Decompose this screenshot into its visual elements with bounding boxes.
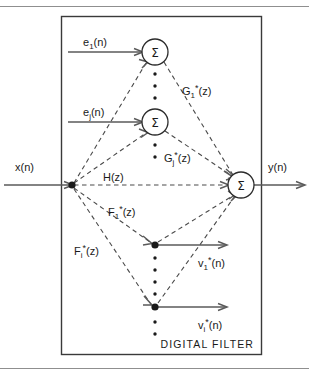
label-e1: e1(n): [83, 36, 107, 51]
label-H-base: H: [103, 171, 111, 183]
label-ej-arg: (n): [91, 106, 104, 118]
label-y: y(n): [268, 161, 287, 173]
label-H: H(z): [103, 171, 124, 183]
label-Fi: Fi*(z): [74, 243, 99, 260]
summer-output-glyph: Σ: [237, 179, 245, 193]
summer-middle: Σ: [142, 109, 168, 135]
label-H-arg: (z): [111, 171, 124, 183]
path-to-summer-top: [74, 63, 146, 183]
label-y-arg: (n): [274, 161, 287, 173]
label-v1-arg: (n): [211, 257, 224, 269]
ellipsis-middle-lower: [153, 143, 156, 158]
branch-node-input: [68, 181, 75, 188]
label-G1: G1*(z): [182, 83, 211, 100]
label-x-arg: (n): [21, 161, 34, 173]
ellipsis-top-middle: [153, 72, 156, 99]
summer-top: Σ: [142, 39, 168, 65]
digital-filter-figure: Σ Σ Σ e1(n) ej(n) x(n) y(n) H(z) G1*(z) …: [0, 0, 309, 379]
summer-middle-glyph: Σ: [151, 116, 159, 130]
label-v1: v1*(n): [198, 255, 225, 272]
path-tapi-to-output: [158, 196, 235, 303]
path-tap1-to-output: [158, 195, 234, 242]
path-F1-arrowhead: [143, 236, 152, 245]
label-Gj-arg: (z): [178, 152, 191, 164]
ellipsis-below-tapi: [153, 320, 156, 335]
digital-filter-caption: DIGITAL FILTER: [161, 338, 254, 350]
label-vi-arg: (n): [209, 319, 222, 331]
label-G1-base: G: [182, 85, 191, 97]
label-Gj: Gj*(z): [164, 150, 191, 167]
tap-node-i: [151, 303, 158, 310]
label-G1-arg: (z): [199, 85, 212, 97]
label-x: x(n): [15, 161, 34, 173]
ellipsis-tap1-tapi: [153, 256, 156, 295]
label-F1: F1*(z): [108, 204, 136, 221]
label-vi: vi*(n): [198, 317, 222, 334]
label-ej: ej(n): [83, 106, 104, 121]
summer-top-glyph: Σ: [151, 46, 159, 60]
label-Gj-base: G: [164, 152, 173, 164]
path-Fi-arrowhead: [143, 296, 152, 305]
label-Fi-arg: (z): [86, 245, 99, 257]
tap-node-1: [151, 241, 158, 248]
label-e1-arg: (n): [94, 36, 107, 48]
summer-output: Σ: [228, 172, 254, 198]
label-F1-arg: (z): [123, 206, 136, 218]
